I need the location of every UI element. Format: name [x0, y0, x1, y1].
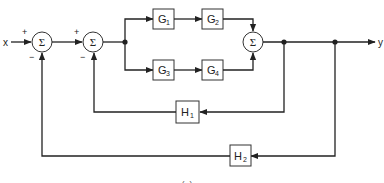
block-h2: H 2	[230, 145, 251, 166]
svg-text:3: 3	[166, 70, 170, 77]
wire-to-g1	[125, 19, 153, 42]
wire-g4-sum3	[223, 53, 253, 70]
plus-sign: +	[74, 27, 79, 37]
svg-text:1: 1	[166, 19, 170, 26]
minus-sign: −	[29, 52, 34, 62]
summing-junction-2: Σ + −	[74, 27, 103, 62]
wire-to-g3	[125, 42, 153, 70]
figure-caption: (a)	[182, 180, 193, 183]
svg-text:2: 2	[215, 19, 219, 26]
summing-junction-3: Σ	[243, 32, 263, 52]
wire-to-h2	[251, 42, 335, 156]
sigma-symbol: Σ	[90, 36, 96, 48]
block-g2: G 2	[202, 9, 223, 29]
block-g1: G 1	[153, 9, 174, 29]
block-g4: G 4	[202, 60, 223, 80]
block-g3: G 3	[153, 60, 174, 80]
input-label-x: x	[3, 37, 8, 48]
svg-text:H: H	[181, 106, 189, 118]
summing-junction-1: Σ + −	[22, 27, 52, 62]
sigma-symbol: Σ	[39, 36, 45, 48]
svg-text:1: 1	[190, 112, 194, 119]
block-diagram: x Σ + − Σ + − G 1 G 2 G 3 G	[0, 0, 384, 183]
minus-sign: −	[80, 52, 85, 62]
svg-text:2: 2	[243, 156, 247, 163]
plus-sign: +	[22, 27, 27, 37]
svg-text:4: 4	[215, 70, 219, 77]
block-h1: H 1	[176, 101, 199, 123]
wire-g2-sum3	[223, 19, 253, 31]
sigma-symbol: Σ	[250, 36, 256, 48]
svg-text:H: H	[234, 150, 242, 162]
output-label-y: y	[378, 37, 383, 48]
